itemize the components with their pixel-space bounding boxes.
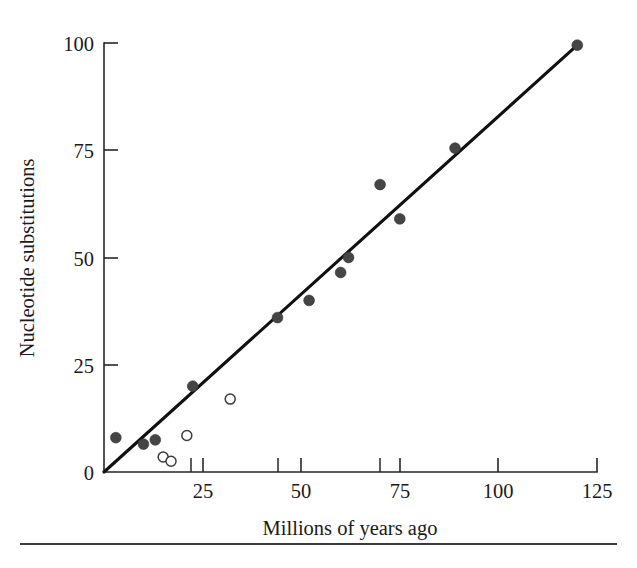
data-point bbox=[394, 213, 405, 224]
x-axis-ticks-major bbox=[203, 458, 597, 472]
data-point bbox=[343, 252, 354, 263]
data-point bbox=[335, 267, 346, 278]
data-point bbox=[225, 394, 235, 404]
y-tick-label-0: 0 bbox=[84, 462, 94, 484]
y-axis-title: Nucleotide substitutions bbox=[16, 159, 38, 358]
data-point bbox=[375, 179, 386, 190]
x-tick-label-125: 125 bbox=[582, 480, 613, 502]
y-tick-label-50: 50 bbox=[74, 248, 95, 270]
data-point bbox=[110, 432, 121, 443]
data-point bbox=[138, 439, 149, 450]
y-tick-label-75: 75 bbox=[74, 140, 95, 162]
data-point bbox=[182, 431, 192, 441]
y-tick-label-100: 100 bbox=[63, 33, 94, 55]
x-tick-label-25: 25 bbox=[193, 480, 214, 502]
trend-line bbox=[104, 45, 577, 472]
y-tick-label-25: 25 bbox=[74, 355, 95, 377]
y-axis-ticks bbox=[104, 43, 118, 365]
data-point bbox=[304, 295, 315, 306]
data-series-filled bbox=[110, 40, 582, 450]
scatter-plot: 100 75 50 25 0 25 50 75 100 125 bbox=[0, 0, 637, 568]
x-axis-ticks-minor bbox=[191, 458, 380, 472]
x-axis-tick-labels: 25 50 75 100 125 bbox=[193, 480, 613, 502]
footer-divider bbox=[20, 543, 617, 545]
x-tick-label-75: 75 bbox=[390, 480, 411, 502]
data-series-open bbox=[158, 394, 235, 466]
x-tick-label-50: 50 bbox=[291, 480, 312, 502]
data-point bbox=[572, 40, 583, 51]
x-tick-label-100: 100 bbox=[483, 480, 514, 502]
data-point bbox=[187, 381, 198, 392]
data-point bbox=[150, 434, 161, 445]
data-point bbox=[450, 143, 461, 154]
y-axis-tick-labels: 100 75 50 25 0 bbox=[63, 33, 94, 484]
data-point bbox=[166, 456, 176, 466]
x-axis-title: Millions of years ago bbox=[263, 517, 438, 540]
figure-root: 100 75 50 25 0 25 50 75 100 125 bbox=[0, 0, 637, 568]
data-point bbox=[272, 312, 283, 323]
